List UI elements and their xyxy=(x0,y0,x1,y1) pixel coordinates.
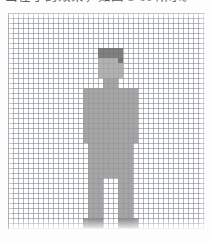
figure-part-arm-right xyxy=(133,98,138,143)
figure-part-hair xyxy=(98,48,123,58)
figure-part-shoe-left xyxy=(83,218,103,228)
caption-strip: 出在子的效果，如图 3-66 所示。 xyxy=(0,0,212,11)
grid-paper xyxy=(8,13,205,229)
figure-part-torso xyxy=(88,98,133,163)
page-root: 出在子的效果，如图 3-66 所示。 xyxy=(0,0,212,242)
figure-part-hair-side xyxy=(118,58,123,63)
figure-part-hips xyxy=(88,163,133,178)
caption-text: 出在子的效果，如图 3-66 所示。 xyxy=(5,0,196,4)
figure-part-shoe-right xyxy=(118,218,138,228)
pixel-figure xyxy=(8,13,205,229)
figure-part-arm-left xyxy=(83,98,88,143)
figure-part-shoulders xyxy=(83,88,138,98)
figure-part-neck xyxy=(103,78,118,88)
